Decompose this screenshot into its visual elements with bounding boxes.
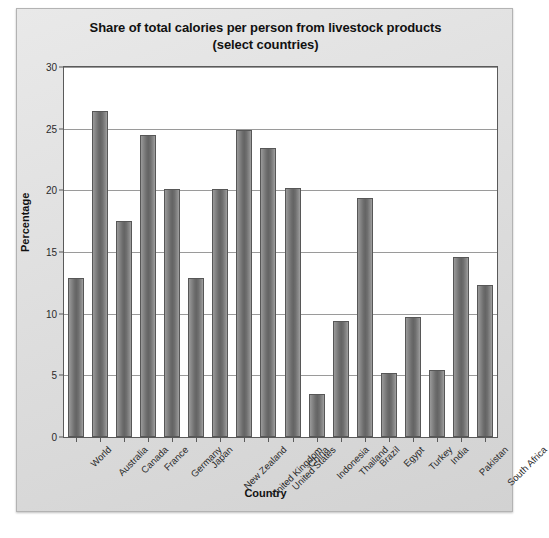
bar: [236, 130, 252, 437]
x-tick-label: Egypt: [401, 444, 426, 469]
x-tick-mark: [100, 437, 101, 442]
x-tick-label: World: [88, 444, 113, 469]
y-tick-label-15: 15: [46, 247, 57, 258]
bar: [309, 394, 325, 437]
x-tick-label: South Africa: [505, 444, 549, 488]
chart-figure: Share of total calories per person from …: [16, 8, 513, 512]
x-tick-mark: [220, 437, 221, 442]
y-tick-mark-25: [59, 128, 64, 129]
bar: [164, 189, 180, 437]
bar: [188, 278, 204, 437]
x-tick-mark: [485, 437, 486, 442]
chart-title-line-1: Share of total calories per person from …: [90, 20, 442, 35]
y-tick-mark-10: [59, 313, 64, 314]
plot-area: 051015202530 WorldAustraliaCanadaFranceG…: [63, 66, 498, 438]
x-tick-mark: [148, 437, 149, 442]
x-tick-mark: [124, 437, 125, 442]
bar: [116, 221, 132, 437]
y-tick-label-5: 5: [51, 370, 57, 381]
bar: [429, 370, 445, 437]
y-tick-mark-15: [59, 252, 64, 253]
gridline-20: [64, 190, 497, 191]
gridline-25: [64, 129, 497, 130]
y-tick-label-10: 10: [46, 308, 57, 319]
x-tick-mark: [172, 437, 173, 442]
bar: [68, 278, 84, 437]
y-tick-mark-20: [59, 190, 64, 191]
x-tick-mark: [317, 437, 318, 442]
bar: [381, 373, 397, 437]
y-tick-label-0: 0: [51, 432, 57, 443]
x-tick-mark: [293, 437, 294, 442]
y-axis-label: Percentage: [19, 193, 31, 252]
x-tick-label: Pakistan: [477, 444, 511, 478]
x-axis-label: Country: [17, 487, 514, 499]
y-tick-label-20: 20: [46, 185, 57, 196]
x-tick-mark: [268, 437, 269, 442]
x-tick-mark: [413, 437, 414, 442]
bar: [140, 135, 156, 437]
x-tick-mark: [437, 437, 438, 442]
bar: [405, 317, 421, 437]
y-tick-mark-0: [59, 437, 64, 438]
bar: [285, 188, 301, 437]
bar: [477, 285, 493, 437]
y-tick-mark-5: [59, 375, 64, 376]
x-tick-mark: [365, 437, 366, 442]
gridline-30: [64, 67, 497, 68]
y-tick-label-30: 30: [46, 62, 57, 73]
x-tick-mark: [196, 437, 197, 442]
bar: [333, 321, 349, 437]
x-tick-mark: [389, 437, 390, 442]
bar: [212, 189, 228, 437]
chart-title: Share of total calories per person from …: [17, 19, 514, 53]
y-tick-mark-30: [59, 67, 64, 68]
x-tick-mark: [76, 437, 77, 442]
bar: [260, 148, 276, 437]
bar: [92, 111, 108, 437]
x-tick-mark: [461, 437, 462, 442]
x-tick-mark: [244, 437, 245, 442]
bar: [453, 257, 469, 437]
chart-title-line-2: (select countries): [213, 37, 319, 52]
bar: [357, 198, 373, 437]
y-tick-label-25: 25: [46, 123, 57, 134]
x-tick-mark: [341, 437, 342, 442]
